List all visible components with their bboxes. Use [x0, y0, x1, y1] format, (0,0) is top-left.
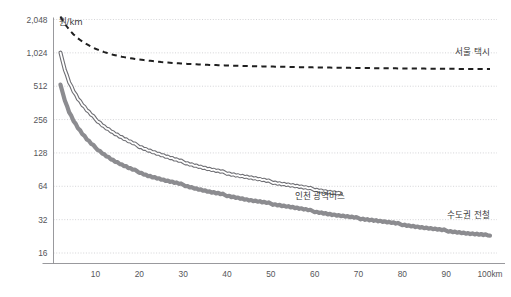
economics-line-chart: 1632641282565121,0242,048 10203040506070…: [0, 0, 511, 297]
y-tick-labels-group: 1632641282565121,0242,048: [27, 15, 48, 259]
x-tick-label-40: 40: [222, 269, 232, 279]
series-paths-group: [60, 16, 490, 235]
series-line-incheon-bus-outer: [60, 53, 341, 194]
chart-container: 1632641282565121,0242,048 10203040506070…: [0, 0, 511, 297]
series-label-incheon-bus: 인천 광역버스: [295, 190, 346, 201]
x-tick-label-10: 10: [91, 269, 101, 279]
x-tick-label-80: 80: [398, 269, 408, 279]
x-tick-label-100: 100km: [477, 269, 502, 279]
x-tick-label-30: 30: [179, 269, 189, 279]
x-tick-labels-group: 102030405060708090100km: [91, 269, 503, 279]
y-tick-label-256: 256: [34, 115, 48, 125]
x-tick-label-20: 20: [135, 269, 145, 279]
series-label-metro-rail: 수도권 전철: [447, 209, 490, 220]
x-tick-label-60: 60: [310, 269, 320, 279]
y-tick-label-64: 64: [38, 181, 48, 191]
series-labels-group: 서울 택시인천 광역버스수도권 전철: [295, 47, 490, 220]
y-tick-label-128: 128: [34, 148, 48, 158]
x-tick-label-70: 70: [354, 269, 364, 279]
y-tick-label-1024: 1,024: [27, 48, 48, 58]
series-label-seoul-taxi: 서울 택시: [455, 47, 490, 57]
series-line-metro-rail: [60, 85, 490, 236]
y-axis-unit-label: 원/km: [59, 17, 83, 27]
x-tick-label-50: 50: [266, 269, 276, 279]
series-line-seoul-taxi: [60, 16, 490, 69]
y-tick-label-512: 512: [34, 81, 48, 91]
y-tick-label-32: 32: [38, 215, 48, 225]
y-tick-label-16: 16: [38, 248, 48, 258]
x-tick-label-90: 90: [442, 269, 452, 279]
y-tick-label-2048: 2,048: [27, 15, 48, 25]
